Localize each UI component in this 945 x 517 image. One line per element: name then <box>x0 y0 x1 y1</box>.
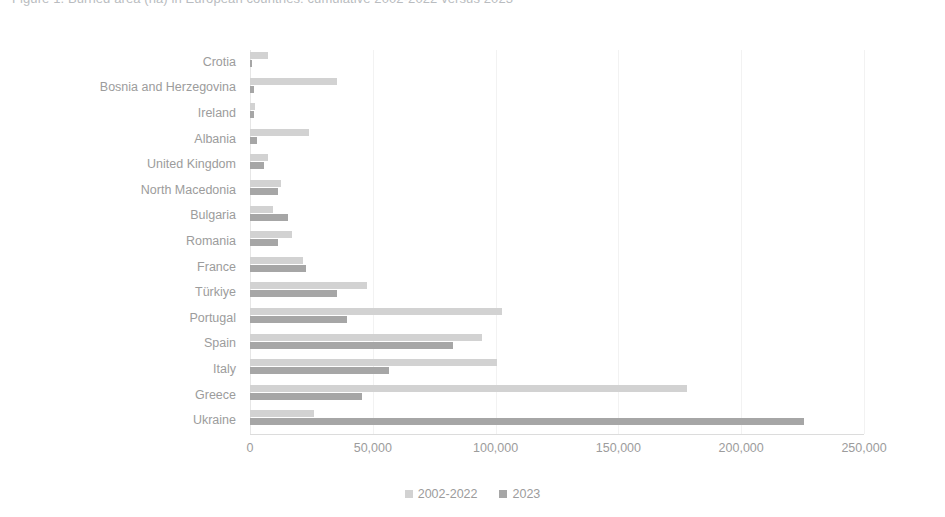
gridline-250000 <box>864 50 865 434</box>
bar-row <box>250 204 864 230</box>
bar-2023[interactable] <box>250 290 337 297</box>
bar-2002-2022[interactable] <box>250 52 268 59</box>
bar-2023[interactable] <box>250 86 254 93</box>
bar-2023[interactable] <box>250 162 264 169</box>
legend-swatch-icon <box>499 490 507 498</box>
page-title: Figure 1. Burned area (ha) in European c… <box>12 0 513 6</box>
category-label: Türkiye <box>195 286 236 299</box>
x-axis-line <box>250 434 864 435</box>
x-tick-label: 50,000 <box>354 441 392 455</box>
bar-row <box>250 408 864 434</box>
x-tick-label: 250,000 <box>841 441 886 455</box>
bar-row <box>250 357 864 383</box>
bar-row <box>250 178 864 204</box>
chart-title-clipped: Figure 1. Burned area (ha) in European c… <box>0 0 945 12</box>
legend-label: 2002-2022 <box>418 487 478 501</box>
bar-2023[interactable] <box>250 111 254 118</box>
category-label: Portugal <box>189 312 236 325</box>
bar-2023[interactable] <box>250 265 306 272</box>
bar-row <box>250 50 864 76</box>
bar-2023[interactable] <box>250 239 278 246</box>
bar-row <box>250 332 864 358</box>
bar-2002-2022[interactable] <box>250 78 337 85</box>
bar-row <box>250 76 864 102</box>
bar-2023[interactable] <box>250 137 257 144</box>
bar-2002-2022[interactable] <box>250 206 273 213</box>
bar-2023[interactable] <box>250 214 288 221</box>
category-axis-labels: CrotiaBosnia and HerzegovinaIrelandAlban… <box>0 50 244 434</box>
category-label: Bosnia and Herzegovina <box>100 81 236 94</box>
bar-2023[interactable] <box>250 367 389 374</box>
category-label: Ukraine <box>193 414 236 427</box>
category-label: Italy <box>213 363 236 376</box>
plot-area <box>250 50 864 434</box>
bar-2023[interactable] <box>250 418 804 425</box>
category-label: Romania <box>186 235 236 248</box>
x-tick-label: 100,000 <box>473 441 518 455</box>
category-label: Ireland <box>198 107 236 120</box>
bar-2023[interactable] <box>250 60 252 67</box>
bar-2002-2022[interactable] <box>250 334 482 341</box>
bar-2023[interactable] <box>250 188 278 195</box>
x-axis-ticks: 050,000100,000150,000200,000250,000 <box>250 441 864 461</box>
legend-swatch-icon <box>405 490 413 498</box>
bar-row <box>250 152 864 178</box>
legend-item[interactable]: 2023 <box>499 487 540 501</box>
bar-2002-2022[interactable] <box>250 257 303 264</box>
category-label: North Macedonia <box>141 184 236 197</box>
bar-2023[interactable] <box>250 393 362 400</box>
category-label: Albania <box>194 133 236 146</box>
bar-row <box>250 101 864 127</box>
bar-row <box>250 306 864 332</box>
category-label: Greece <box>195 389 236 402</box>
bar-2002-2022[interactable] <box>250 129 309 136</box>
bar-2002-2022[interactable] <box>250 410 314 417</box>
chart-container: Figure 1. Burned area (ha) in European c… <box>0 0 945 517</box>
bar-row <box>250 383 864 409</box>
bar-2002-2022[interactable] <box>250 180 281 187</box>
bar-2002-2022[interactable] <box>250 359 497 366</box>
bar-row <box>250 255 864 281</box>
x-tick-label: 0 <box>247 441 254 455</box>
category-label: Bulgaria <box>190 209 236 222</box>
legend-label: 2023 <box>512 487 540 501</box>
bar-2002-2022[interactable] <box>250 308 502 315</box>
legend-item[interactable]: 2002-2022 <box>405 487 478 501</box>
category-label: Crotia <box>203 56 236 69</box>
bar-2023[interactable] <box>250 342 453 349</box>
category-label: France <box>197 261 236 274</box>
bar-row <box>250 280 864 306</box>
bar-2002-2022[interactable] <box>250 385 687 392</box>
category-label: United Kingdom <box>147 158 236 171</box>
bar-row <box>250 127 864 153</box>
bar-rows <box>250 50 864 434</box>
chart-legend: 2002-20222023 <box>0 487 945 501</box>
bar-2002-2022[interactable] <box>250 282 367 289</box>
x-tick-label: 200,000 <box>719 441 764 455</box>
category-label: Spain <box>204 337 236 350</box>
bar-2002-2022[interactable] <box>250 231 292 238</box>
bar-2002-2022[interactable] <box>250 103 255 110</box>
bar-2002-2022[interactable] <box>250 154 268 161</box>
bar-2023[interactable] <box>250 316 347 323</box>
bar-row <box>250 229 864 255</box>
x-tick-label: 150,000 <box>596 441 641 455</box>
